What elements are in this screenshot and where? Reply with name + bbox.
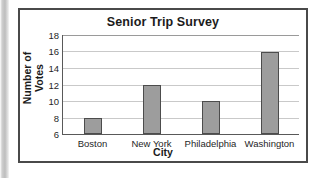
plot-inner: 681012141618BostonNew YorkPhiladelphiaWa… xyxy=(63,35,299,134)
plot-area: 681012141618BostonNew YorkPhiladelphiaWa… xyxy=(62,35,299,135)
y-axis-tick-label: 12 xyxy=(48,79,59,90)
page-edge-strip xyxy=(0,0,9,178)
y-axis-label: Number of Votes xyxy=(21,43,45,113)
x-axis-label: City xyxy=(20,146,306,158)
y-axis-tick-label: 8 xyxy=(54,112,59,123)
y-axis-tick-label: 14 xyxy=(48,62,59,73)
chart-container: Senior Trip Survey Number of Votes 68101… xyxy=(18,8,308,163)
y-axis-tick-label: 16 xyxy=(48,46,59,57)
gridline xyxy=(63,35,299,36)
chart-title: Senior Trip Survey xyxy=(20,15,306,29)
y-axis-tick-label: 6 xyxy=(54,129,59,140)
bar-washington xyxy=(261,52,279,135)
bar-philadelphia xyxy=(202,101,220,134)
y-axis-tick-label: 18 xyxy=(48,30,59,41)
bar-boston xyxy=(84,118,102,134)
y-axis-tick-label: 10 xyxy=(48,95,59,106)
bar-new-york xyxy=(143,85,161,135)
